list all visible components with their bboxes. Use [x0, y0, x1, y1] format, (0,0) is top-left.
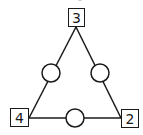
left-edge-circle[interactable]: [42, 64, 60, 82]
right-edge-circle[interactable]: [91, 64, 109, 82]
corner-box-bottom-left: 4: [10, 108, 29, 127]
corner-box-bottom-right: 2: [121, 109, 139, 128]
bottom-edge-circle[interactable]: [66, 109, 84, 127]
corner-box-top: 3: [68, 8, 85, 27]
triangle-puzzle-diagram: 3 4 2: [0, 0, 143, 135]
